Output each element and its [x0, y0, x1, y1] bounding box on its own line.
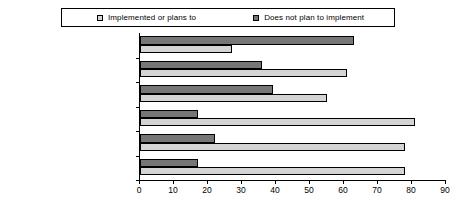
- bar-does-not-plan: [140, 36, 354, 44]
- bar-implemented: [140, 94, 327, 102]
- bar-implemented: [140, 167, 405, 175]
- x-axis-tick: [241, 180, 242, 184]
- bar-chart: Implemented or plans to Does not plan to…: [0, 0, 459, 205]
- bar-group: Establishment of whistle-blower procedur…: [140, 82, 446, 107]
- x-axis-tick-label: 50: [297, 185, 321, 195]
- x-axis-line: [139, 180, 446, 181]
- x-axis-tick-label: 60: [331, 185, 355, 195]
- bar-does-not-plan: [140, 159, 198, 167]
- x-axis-tick: [343, 180, 344, 184]
- bar-does-not-plan: [140, 85, 273, 93]
- bar-implemented: [140, 143, 405, 151]
- bar-does-not-plan: [140, 61, 262, 69]
- x-axis-tick-label: 80: [399, 185, 423, 195]
- chart-legend: Implemented or plans to Does not plan to…: [61, 8, 395, 27]
- x-axis-tick: [445, 180, 446, 184]
- x-axis-tick-label: 30: [229, 185, 253, 195]
- bar-group: Restricting executivecompensation: [140, 33, 446, 58]
- x-axis-tick-label: 0: [127, 185, 151, 195]
- x-axis-tick: [207, 180, 208, 184]
- legend-label-not-planning: Does not plan to implement: [264, 13, 364, 22]
- plot-area: Restricting executivecompensationBoard a…: [139, 33, 446, 180]
- legend-item-not-planning: Does not plan to implement: [253, 13, 364, 22]
- x-axis-tick-label: 70: [365, 185, 389, 195]
- bar-does-not-plan: [140, 110, 198, 118]
- x-axis-tick: [377, 180, 378, 184]
- x-axis-tick: [275, 180, 276, 184]
- x-axis-tick-label: 90: [433, 185, 457, 195]
- bar-implemented: [140, 118, 415, 126]
- x-axis-tick: [139, 180, 140, 184]
- bar-does-not-plan: [140, 134, 215, 142]
- legend-swatch-dark-icon: [253, 15, 259, 21]
- x-axis-tick-label: 40: [263, 185, 287, 195]
- bar-group: Establishment of corporateethical code: [140, 107, 446, 132]
- bar-implemented: [140, 45, 232, 53]
- x-axis-tick: [173, 180, 174, 184]
- x-axis-tick: [411, 180, 412, 184]
- legend-item-implemented: Implemented or plans to: [97, 13, 196, 22]
- x-axis-tick-label: 20: [195, 185, 219, 195]
- bar-group: Audit committee oversight ofauditors: [140, 131, 446, 156]
- legend-swatch-light-icon: [97, 15, 103, 21]
- x-axis-tick: [309, 180, 310, 184]
- bar-group: Establishment ofindependent directors: [140, 156, 446, 181]
- legend-label-implemented: Implemented or plans to: [108, 13, 196, 22]
- bar-implemented: [140, 69, 347, 77]
- x-axis-tick-label: 10: [161, 185, 185, 195]
- bar-group: Board approval of non-auditservices by a…: [140, 58, 446, 83]
